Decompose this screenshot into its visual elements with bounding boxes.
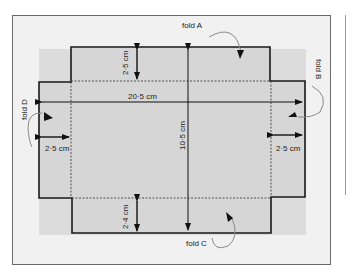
bottom-flap-height-label: 2·4 cm xyxy=(121,204,130,229)
box-net-outline xyxy=(39,47,305,233)
left-flap-width-label: 2·5 cm xyxy=(45,144,70,153)
total-height-label: 10·5 cm xyxy=(178,121,187,150)
total-width-label: 20·5 cm xyxy=(128,92,157,101)
top-flap-height-label: 2·5 cm xyxy=(121,50,130,75)
box-net-diagram: fold A fold B fold C fold D 20·5 cm 10·5… xyxy=(0,0,346,279)
fold-c-label: fold C xyxy=(186,239,207,248)
fold-b-label: fold B xyxy=(314,59,323,79)
fold-d-label: fold D xyxy=(20,99,29,120)
fold-a-label: fold A xyxy=(182,21,203,30)
right-flap-width-label: 2·5 cm xyxy=(276,144,301,153)
